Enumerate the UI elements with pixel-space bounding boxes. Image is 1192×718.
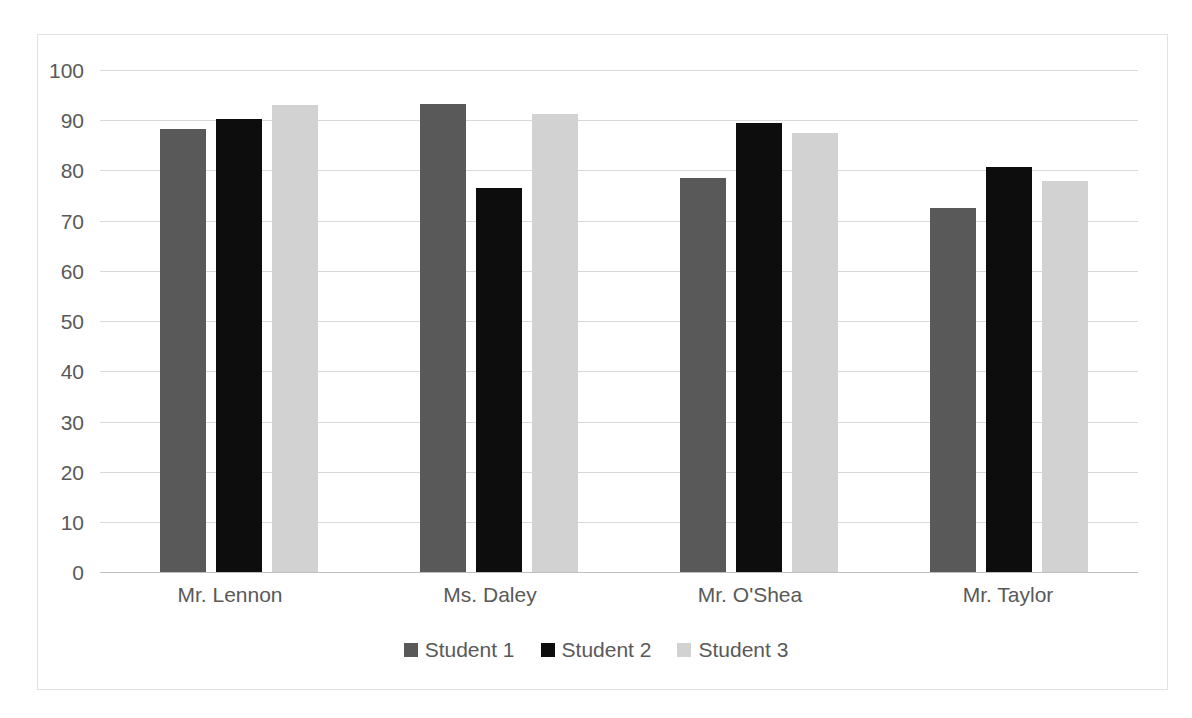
legend-item[interactable]: Student 3 xyxy=(677,639,788,660)
legend-swatch-icon xyxy=(541,643,555,657)
bar xyxy=(532,114,578,572)
legend-label: Student 3 xyxy=(698,639,788,660)
category-label: Ms. Daley xyxy=(360,584,620,605)
y-tick-label: 50 xyxy=(28,311,84,332)
y-tick-label: 20 xyxy=(28,462,84,483)
legend-swatch-icon xyxy=(677,643,691,657)
bar-group xyxy=(680,70,838,572)
bar-group xyxy=(420,70,578,572)
y-tick-label: 70 xyxy=(28,211,84,232)
y-tick-label: 0 xyxy=(28,562,84,583)
bar-chart: 100 90 80 70 60 50 40 30 20 10 0 Mr. Len… xyxy=(0,0,1192,718)
x-axis-line xyxy=(100,572,1138,573)
y-tick-label: 60 xyxy=(28,261,84,282)
bar xyxy=(160,129,206,572)
bar xyxy=(476,188,522,572)
y-tick-label: 90 xyxy=(28,110,84,131)
y-tick-label: 100 xyxy=(28,60,84,81)
y-tick-label: 10 xyxy=(28,512,84,533)
legend-swatch-icon xyxy=(404,643,418,657)
chart-legend: Student 1Student 2Student 3 xyxy=(0,639,1192,660)
y-tick-label: 40 xyxy=(28,361,84,382)
legend-label: Student 1 xyxy=(425,639,515,660)
bar xyxy=(792,133,838,572)
bar xyxy=(930,208,976,572)
bar xyxy=(1042,181,1088,572)
category-label: Mr. O'Shea xyxy=(620,584,880,605)
legend-label: Student 2 xyxy=(562,639,652,660)
y-tick-label: 30 xyxy=(28,412,84,433)
bar xyxy=(272,105,318,572)
bars-layer xyxy=(100,70,1138,572)
bar xyxy=(986,167,1032,572)
y-tick-label: 80 xyxy=(28,160,84,181)
category-label: Mr. Taylor xyxy=(878,584,1138,605)
bar xyxy=(680,178,726,572)
category-label: Mr. Lennon xyxy=(100,584,360,605)
bar xyxy=(216,119,262,572)
plot-area xyxy=(100,70,1138,572)
bar xyxy=(736,123,782,572)
bar-group xyxy=(160,70,318,572)
legend-item[interactable]: Student 2 xyxy=(541,639,652,660)
bar xyxy=(420,104,466,572)
bar-group xyxy=(930,70,1088,572)
legend-item[interactable]: Student 1 xyxy=(404,639,515,660)
